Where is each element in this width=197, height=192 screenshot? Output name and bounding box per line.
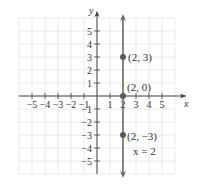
x-axis-label: x	[183, 98, 189, 109]
x-tick-label: 1	[108, 99, 113, 110]
x-tick-label: −5	[27, 99, 38, 110]
x-tick-label: −2	[66, 99, 77, 110]
y-tick-label: −2	[81, 117, 92, 128]
data-point	[120, 132, 126, 138]
y-tick-label: 2	[87, 65, 92, 76]
y-tick-label: −1	[81, 104, 92, 115]
data-point	[120, 93, 126, 99]
axes	[19, 11, 186, 174]
y-tick-label: −3	[81, 130, 92, 141]
point-label-2-3: (2, 3)	[128, 51, 152, 64]
x-tick-label: 4	[147, 99, 152, 110]
x-tick-label: 3	[134, 99, 139, 110]
coordinate-plane: −5−4−3−2−112345−5−4−3−2−112345 y x (2, 3…	[0, 0, 197, 192]
y-tick-label: −5	[81, 156, 92, 167]
x-tick-label: −3	[53, 99, 64, 110]
y-tick-label: 4	[87, 39, 92, 50]
y-tick-label: −4	[81, 143, 92, 154]
point-label-2-neg3: (2, −3)	[127, 130, 157, 143]
equation-label: x = 2	[133, 145, 156, 157]
point-label-2-0: (2, 0)	[127, 81, 151, 94]
y-axis-label: y	[88, 5, 94, 16]
x-tick-label: 5	[160, 99, 165, 110]
y-tick-label: 5	[87, 26, 92, 37]
x-tick-label: −4	[40, 99, 51, 110]
data-point	[120, 54, 126, 60]
y-tick-label: 1	[87, 78, 92, 89]
y-tick-label: 3	[87, 52, 92, 63]
